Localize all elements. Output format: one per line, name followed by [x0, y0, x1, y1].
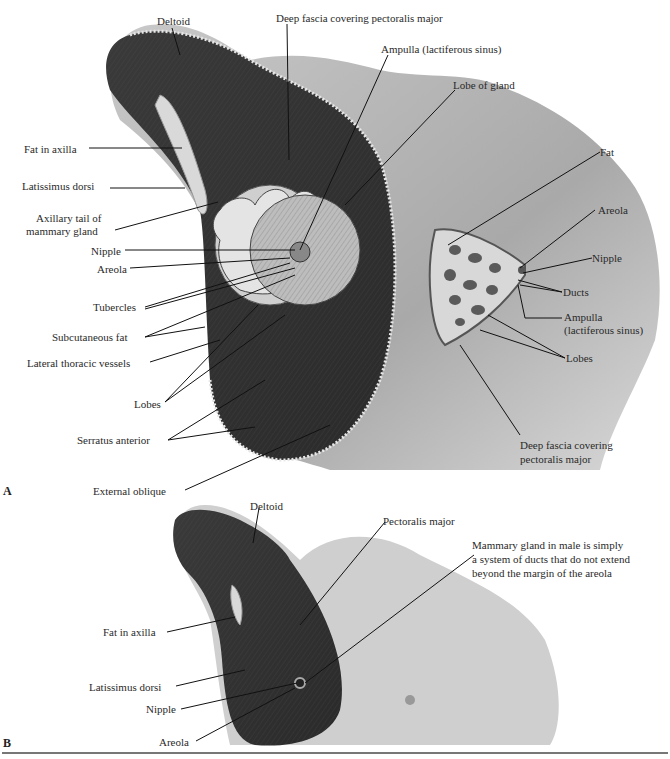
label-lobes-a-left: Lobes — [134, 398, 161, 410]
label-tubercles: Tubercles — [93, 301, 136, 313]
label-ampulla-right-line1: Ampulla — [564, 311, 603, 323]
label-lobe-of-gland: Lobe of gland — [453, 79, 515, 91]
label-nipple-a-right: Nipple — [592, 252, 622, 264]
label-lobes-a-right: Lobes — [566, 352, 593, 364]
label-deep-fascia-top: Deep fascia covering pectoralis major — [276, 12, 443, 24]
label-areola-a-left: Areola — [97, 263, 127, 275]
bottom-rule — [2, 752, 668, 754]
label-areola-b: Areola — [159, 736, 189, 748]
label-male-note-line3: beyond the margin of the areola — [472, 567, 612, 579]
label-axillary-tail-line1: Axillary tail of — [36, 212, 101, 224]
figure-a-torso — [106, 24, 660, 470]
panel-letter-b: B — [3, 736, 11, 751]
label-male-note-line1: Mammary gland in male is simply — [472, 539, 623, 551]
label-pectoralis-major-b: Pectoralis major — [383, 515, 455, 527]
label-deltoid-b: Deltoid — [250, 500, 283, 512]
label-fat-in-axilla-b: Fat in axilla — [103, 626, 156, 638]
label-lateral-thoracic-vessels: Lateral thoracic vessels — [27, 357, 130, 369]
label-fat-a-right: Fat — [600, 146, 614, 158]
label-ampulla-top: Ampulla (lactiferous sinus) — [381, 43, 501, 55]
label-serratus-anterior: Serratus anterior — [77, 434, 150, 446]
label-fat-in-axilla-a: Fat in axilla — [24, 143, 77, 155]
label-areola-a-right: Areola — [598, 204, 628, 216]
label-deltoid-a: Deltoid — [157, 15, 190, 27]
label-nipple-a-left: Nipple — [91, 245, 121, 257]
label-ducts: Ducts — [563, 286, 589, 298]
label-subcutaneous-fat: Subcutaneous fat — [52, 331, 127, 343]
label-latissimus-dorsi-b: Latissimus dorsi — [89, 681, 161, 693]
label-ampulla-right-line2: (lactiferous sinus) — [564, 324, 643, 336]
label-nipple-b: Nipple — [146, 703, 176, 715]
label-external-oblique: External oblique — [93, 485, 166, 497]
label-deep-fascia-bottom-line1: Deep fascia covering — [520, 439, 613, 451]
label-male-note-line2: a system of ducts that do not extend — [472, 553, 630, 565]
label-axillary-tail-line2: mammary gland — [26, 225, 98, 237]
label-latissimus-dorsi-a: Latissimus dorsi — [22, 180, 94, 192]
label-deep-fascia-bottom-line2: pectoralis major — [520, 453, 591, 465]
anatomy-illustration — [0, 0, 670, 759]
panel-letter-a: A — [3, 484, 12, 499]
